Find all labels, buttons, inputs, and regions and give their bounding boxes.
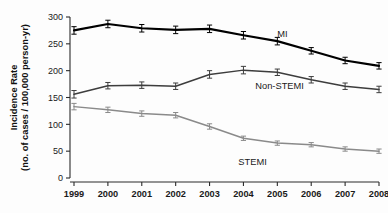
y-tick-label: 50 [53,146,63,156]
y-axis-title-line1: Incidence Rate [9,65,19,131]
incidence-rate-line-chart: 0501001502002503001999200020012002200320… [0,0,388,213]
y-axis-title-line2: (no. of cases / 100,000 person-yr) [20,24,30,171]
x-tick-label: 2002 [165,189,185,199]
y-tick-label: 250 [48,39,63,49]
x-tick-label: 2003 [199,189,219,199]
series-label-non-stemi: Non-STEMI [255,81,304,91]
series-label-stemi: STEMI [238,157,266,167]
y-tick-label: 0 [58,173,63,183]
series-mi [71,20,381,69]
series-line-path [74,70,379,94]
series-label-mi: MI [277,29,287,39]
x-tick-label: 2001 [132,189,152,199]
y-tick-label: 150 [48,93,63,103]
x-tick-label: 2007 [335,189,355,199]
series-non-stemi [71,66,381,98]
y-tick-label: 200 [48,66,63,76]
x-tick-label: 2000 [98,189,118,199]
y-tick-label: 300 [48,12,63,22]
x-tick-label: 2008 [369,189,388,199]
series-line-path [74,107,379,152]
chart-figure: 0501001502002503001999200020012002200320… [0,0,388,213]
x-tick-label: 2005 [267,189,287,199]
y-tick-label: 100 [48,120,63,130]
series-stemi [71,103,381,153]
x-tick-label: 2006 [301,189,321,199]
x-tick-label: 2004 [233,189,254,199]
x-tick-label: 1999 [64,189,84,199]
series-line-path [74,24,379,66]
